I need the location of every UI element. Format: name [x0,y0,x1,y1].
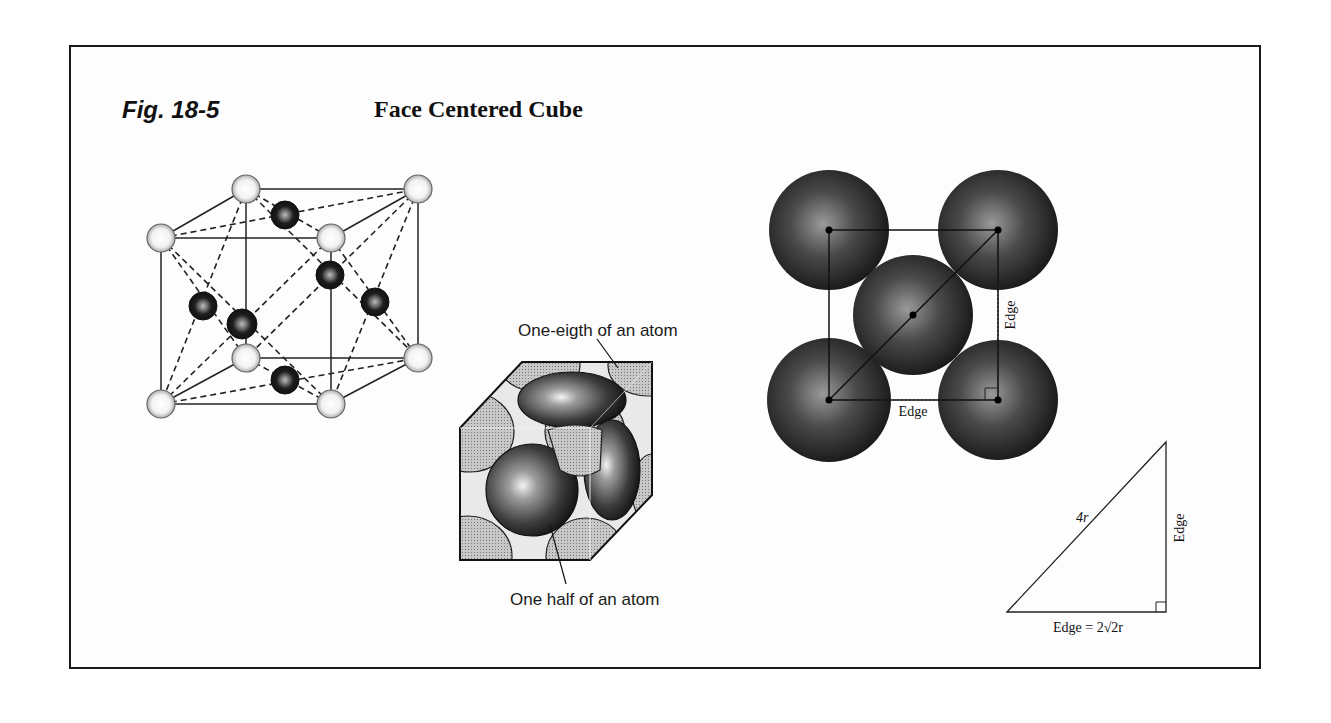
vertical-edge-label: Edge [1172,514,1187,543]
corner-atom [232,344,260,372]
one-half-atom-label: One half of an atom [510,590,659,610]
face-atom-right [361,288,389,316]
face-atom-left [189,292,217,320]
corner-atom [232,175,260,203]
diagram-canvas: Edge Edge 4r Edge Edge = 2√2r [0,0,1331,723]
one-eighth-atom-label: One-eigth of an atom [518,321,678,341]
face-atom-back [316,261,344,289]
face-atom-front [227,309,257,339]
corner-atom [317,390,345,418]
edge-label-right: Edge [1003,301,1018,330]
face-atom-top [271,201,299,229]
hypotenuse-label: 4r [1076,510,1089,525]
corner-atom [317,224,345,252]
corner-atom [404,175,432,203]
face-atom-bottom [271,366,299,394]
corner-atom [404,344,432,372]
space-filling-cube [424,336,688,596]
corner-atom [147,390,175,418]
base-edge-label: Edge = 2√2r [1053,620,1123,635]
right-triangle: 4r Edge Edge = 2√2r [1007,442,1187,635]
fcc-face-view: Edge Edge [767,170,1058,462]
corner-atom [147,224,175,252]
edge-label-bottom: Edge [899,404,928,419]
fcc-lattice-diagram [147,175,432,418]
